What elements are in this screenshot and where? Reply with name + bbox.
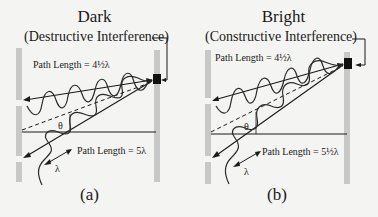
screen (154, 50, 160, 182)
bottom-ray-arrow (23, 152, 31, 158)
slit-wall-top (205, 50, 211, 98)
panel-caption: (b) (267, 185, 287, 205)
top-wave (216, 58, 339, 113)
panel-title: Bright (189, 7, 378, 27)
panel-title: Dark (0, 7, 189, 27)
detector-marker (344, 58, 352, 69)
panel-subtitle: (Destructive Interference) (24, 29, 169, 45)
center-dashed-line (211, 66, 343, 132)
bottom-path-length-label: Path Length = 5λ (77, 145, 146, 156)
top-ray-arrow (212, 96, 219, 101)
wavelength-label: λ (244, 166, 249, 177)
top-path-length-label: Path Length = 4½λ (215, 52, 292, 63)
panel-destructive-interference: Dark (Destructive Interference) Path Len… (0, 0, 189, 217)
panel-caption: (a) (80, 185, 99, 205)
callout-arrow (161, 78, 166, 82)
panel-constructive-interference: Bright (Constructive Interference) Path … (189, 0, 378, 217)
top-ray-arrow (23, 96, 30, 102)
panel-subtitle: (Constructive Interference) (205, 29, 357, 45)
bottom-path-length-label: Path Length = 5½λ (262, 146, 339, 157)
wavelength-label: λ (55, 163, 60, 174)
callout-arrow (355, 63, 361, 67)
slit-wall-middle (16, 106, 22, 156)
angle-theta-label: θ (244, 121, 249, 132)
detector-marker (153, 74, 161, 84)
slit-wall-middle (205, 104, 211, 156)
angle-theta-label: θ (58, 120, 63, 131)
top-path-length-label: Path Length = 4½λ (33, 59, 110, 70)
slit-wall-top (16, 48, 22, 100)
bottom-ray (214, 65, 343, 157)
bottom-ray-arrow (212, 151, 220, 158)
slit-wall-bottom (16, 162, 22, 182)
screen (344, 52, 350, 184)
slit-wall-bottom (205, 162, 211, 184)
